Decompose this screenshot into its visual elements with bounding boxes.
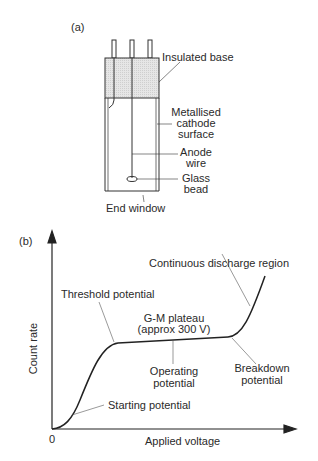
label-anode-2: wire (176, 158, 216, 169)
label-glass-2: bead (176, 184, 216, 195)
diagram-canvas (0, 0, 318, 461)
annotation-plateau-2: (approx 300 V) (134, 324, 214, 335)
annotation-operating-2: potential (144, 378, 204, 389)
label-insulated-base: Insulated base (162, 52, 234, 63)
origin-label: 0 (49, 434, 55, 445)
annotation-starting: Starting potential (108, 400, 191, 411)
y-axis-label: Count rate (28, 312, 39, 386)
annotation-breakdown-2: potential (232, 375, 292, 386)
annotation-continuous: Continuous discharge region (149, 258, 289, 269)
annotation-operating-1: Operating (144, 366, 204, 377)
annotation-threshold: Threshold potential (61, 289, 155, 300)
panel-a-label: (a) (71, 22, 84, 33)
panel-b-label: (b) (19, 236, 32, 247)
x-axis-label: Applied voltage (145, 436, 220, 447)
gm-tube (105, 40, 180, 202)
annotation-breakdown-1: Breakdown (232, 363, 292, 374)
label-end-window: End window (106, 203, 165, 214)
label-cathode-3: surface (170, 129, 222, 140)
